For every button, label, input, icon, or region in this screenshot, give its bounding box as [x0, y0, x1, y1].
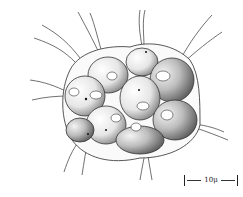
scale-bar-right-tick — [237, 175, 238, 186]
scale-bar-line — [187, 180, 201, 181]
scale-bar: 10μ — [184, 173, 238, 187]
scale-bar-line — [221, 180, 235, 181]
colony-illustration — [0, 0, 243, 197]
scale-bar-label: 10μ — [203, 176, 218, 184]
scale-bar-left-tick — [184, 175, 185, 186]
